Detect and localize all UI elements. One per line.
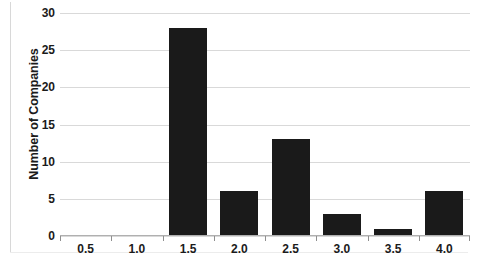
y-tick-label: 10 <box>15 155 55 169</box>
bar-series <box>60 13 470 236</box>
x-tick-label: 3.5 <box>368 242 418 256</box>
bar <box>169 28 207 236</box>
bar <box>272 139 310 236</box>
x-tick-mark <box>316 236 317 241</box>
x-tick-label: 3.0 <box>317 242 367 256</box>
x-tick-label: 2.5 <box>266 242 316 256</box>
y-tick-label: 25 <box>15 43 55 57</box>
figure-border-left <box>10 2 11 252</box>
y-tick-label: 20 <box>15 80 55 94</box>
x-tick-label: 0.5 <box>61 242 111 256</box>
x-tick-mark <box>60 236 61 241</box>
y-tick-label: 30 <box>15 6 55 20</box>
x-axis: 0.51.01.52.02.53.03.54.0 <box>60 236 470 263</box>
x-tick-mark <box>163 236 164 241</box>
bar <box>425 191 463 236</box>
x-tick-mark <box>419 236 420 241</box>
x-tick-mark <box>265 236 266 241</box>
x-tick-label: 1.5 <box>163 242 213 256</box>
y-tick-label: 5 <box>15 192 55 206</box>
x-tick-mark <box>469 236 470 241</box>
x-tick-label: 4.0 <box>419 242 469 256</box>
y-tick-label: 0 <box>15 229 55 243</box>
plot-area <box>60 13 470 236</box>
y-tick-label: 15 <box>15 118 55 132</box>
bar <box>323 214 361 236</box>
histogram-figure: Number of Companies 051015202530 0.51.01… <box>0 0 478 263</box>
x-tick-mark <box>214 236 215 241</box>
bar <box>220 191 258 236</box>
x-tick-label: 1.0 <box>112 242 162 256</box>
x-tick-mark <box>111 236 112 241</box>
x-tick-label: 2.0 <box>214 242 264 256</box>
x-tick-mark <box>368 236 369 241</box>
